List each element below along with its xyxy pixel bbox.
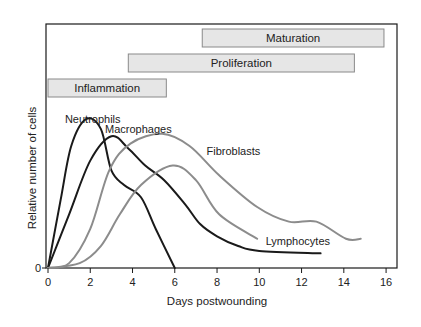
x-tick-label: 8 (214, 276, 220, 288)
y-axis-label: Relative number of cells (26, 106, 38, 229)
x-axis-label: Days postwounding (167, 295, 267, 307)
x-tick-label: 4 (129, 276, 135, 288)
phase-bar-label: Inflammation (74, 82, 140, 94)
phase-bar-inflammation: Inflammation (48, 79, 166, 97)
phase-bar-label: Maturation (266, 32, 320, 44)
x-tick-label: 12 (295, 276, 307, 288)
phase-bars: InflammationProliferationMaturation (48, 29, 384, 97)
label-macrophages: Macrophages (105, 123, 172, 135)
wound-healing-chart: InflammationProliferationMaturation 0246… (0, 0, 421, 327)
phase-bar-maturation: Maturation (202, 29, 384, 47)
phase-bar-proliferation: Proliferation (128, 54, 354, 72)
x-tick-label: 6 (172, 276, 178, 288)
label-fibroblasts: Fibroblasts (206, 145, 260, 157)
x-tick-label: 10 (253, 276, 265, 288)
y-tick-label: 0 (35, 262, 41, 274)
line-neutrophils (48, 118, 175, 268)
axes: 02468101214160Days postwoundingRelative … (26, 106, 392, 307)
x-tick-label: 0 (45, 276, 51, 288)
x-tick-label: 16 (380, 276, 392, 288)
line-macrophages (48, 136, 321, 268)
label-lymphocytes: Lymphocytes (266, 235, 331, 247)
phase-bar-label: Proliferation (211, 57, 272, 69)
x-tick-label: 14 (338, 276, 350, 288)
x-tick-label: 2 (87, 276, 93, 288)
